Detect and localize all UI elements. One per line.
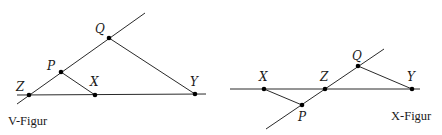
x-label-z: Z — [319, 70, 329, 84]
x-label-x: X — [258, 70, 268, 84]
x-figure: X Z Q P Y X-Figur — [230, 49, 432, 129]
v-figure-caption: V-Figur — [8, 114, 48, 128]
x-point-x — [262, 87, 267, 92]
v-baseline — [17, 94, 206, 95]
x-figure-caption: X-Figur — [391, 109, 432, 123]
v-segment-qy — [109, 38, 195, 94]
v-point-z — [27, 93, 32, 98]
x-point-y — [410, 87, 415, 92]
x-point-p — [300, 103, 305, 108]
v-label-z: Z — [15, 80, 25, 94]
v-label-q: Q — [95, 22, 105, 36]
v-point-x — [93, 93, 98, 98]
x-label-y: Y — [407, 70, 416, 84]
x-label-p: P — [297, 110, 307, 124]
v-label-x: X — [89, 75, 99, 89]
v-label-y: Y — [190, 75, 199, 89]
x-segment-qy — [358, 66, 412, 89]
diagram-canvas: Z P Q X Y V-Figur X Z Q P Y X-Figur — [0, 0, 442, 135]
v-diagonal-line — [17, 13, 145, 104]
x-point-q — [356, 64, 361, 69]
v-point-y — [193, 92, 198, 97]
v-label-p: P — [46, 59, 56, 73]
x-label-q: Q — [352, 49, 362, 63]
x-point-z — [323, 87, 328, 92]
v-point-q — [107, 36, 112, 41]
v-point-p — [59, 70, 64, 75]
x-segment-xp — [264, 89, 302, 105]
v-figure: Z P Q X Y V-Figur — [8, 13, 206, 128]
